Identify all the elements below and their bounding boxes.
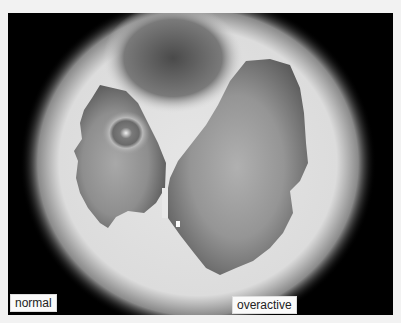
bright-fleck bbox=[162, 188, 168, 218]
label-normal: normal bbox=[10, 294, 57, 312]
brain-scan-image bbox=[8, 13, 393, 315]
hot-spot bbox=[102, 111, 150, 155]
dark-fleck bbox=[176, 221, 180, 227]
label-overactive: overactive bbox=[232, 296, 297, 314]
brain-scan-graphic bbox=[8, 13, 393, 315]
